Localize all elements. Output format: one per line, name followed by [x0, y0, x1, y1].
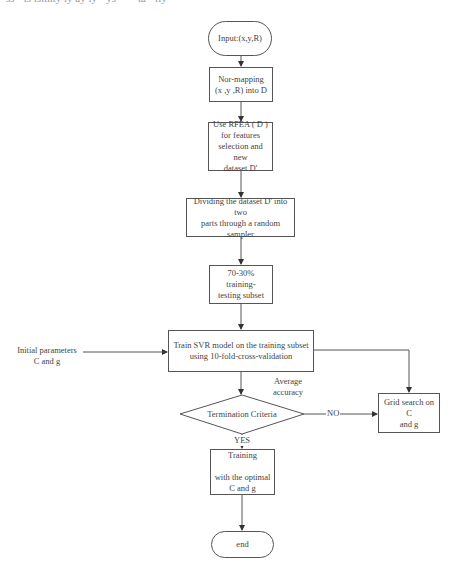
training-optimal-box: Training with the optimal C and g [210, 449, 275, 495]
split-box: 70-30% training- testing subset [209, 265, 273, 304]
dividing-box: Dividing the dataset D' into two parts t… [186, 198, 295, 237]
no-label: NO [326, 408, 340, 419]
initial-params-label: Initial parameters C and g [12, 345, 82, 367]
end-terminator: end [211, 531, 274, 558]
termination-criteria-label: Termination Criteria [196, 409, 288, 420]
grid-search-label: Grid search on C and g [382, 397, 436, 430]
nor-mapping-label: Nor-mapping (x ,y ,R) into D [215, 74, 267, 96]
rfea-box: Use RFEA ( D ) for features selection an… [208, 122, 273, 171]
train-svr-box: Train SVR model on the training subset u… [168, 330, 314, 372]
input-terminator: Input:(x,y,R) [208, 21, 272, 56]
input-label: Input:(x,y,R) [218, 33, 262, 44]
yes-label: YES [233, 435, 251, 446]
average-accuracy-label: Average accuracy [268, 376, 308, 398]
training-optimal-label: Training with the optimal C and g [215, 450, 271, 494]
dividing-label: Dividing the dataset D' into two parts t… [190, 196, 291, 240]
train-svr-label: Train SVR model on the training subset u… [173, 340, 308, 362]
end-label: end [236, 539, 248, 550]
rfea-label: Use RFEA ( D ) for features selection an… [212, 119, 269, 174]
grid-search-box: Grid search on C and g [378, 393, 440, 433]
split-label: 70-30% training- testing subset [213, 268, 269, 301]
nor-mapping-box: Nor-mapping (x ,y ,R) into D [209, 67, 273, 102]
